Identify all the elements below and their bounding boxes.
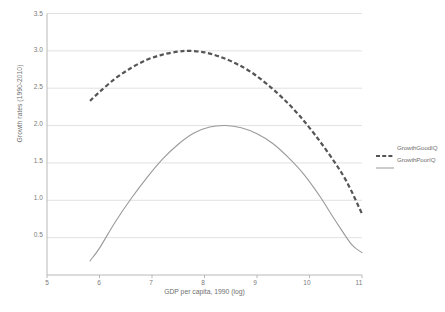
y-axis-title: Growth rates (1990-2010) bbox=[16, 39, 23, 169]
legend-item-growthpooriq[interactable]: GrowthPoorIQ bbox=[376, 154, 445, 165]
series-line-growthgoodiq bbox=[90, 51, 362, 214]
legend-swatch-dashed bbox=[376, 145, 394, 151]
series-line-growthpooriq bbox=[90, 126, 362, 261]
legend-label-growthgoodiq: GrowthGoodIQ bbox=[397, 144, 437, 151]
x-tick-label-2: 7 bbox=[141, 279, 161, 286]
legend-item-growthgoodiq[interactable]: GrowthGoodIQ bbox=[376, 142, 445, 153]
y-tick-label-1: 3.0 bbox=[21, 46, 43, 53]
y-tick-label-3: 2.0 bbox=[21, 120, 43, 127]
x-tick-label-0: 5 bbox=[37, 279, 57, 286]
y-tick-label-6: 0.5 bbox=[21, 231, 43, 238]
y-tick-label-2: 2.5 bbox=[21, 83, 43, 90]
y-tick-label-5: 1.0 bbox=[21, 194, 43, 201]
gridlines-group bbox=[47, 14, 362, 238]
x-tick-label-4: 9 bbox=[245, 279, 265, 286]
x-tick-label-3: 8 bbox=[193, 279, 213, 286]
x-tick-label-1: 6 bbox=[89, 279, 109, 286]
legend-label-growthpooriq: GrowthPoorIQ bbox=[397, 156, 435, 163]
x-tick-label-6: 11 bbox=[349, 279, 369, 286]
legend-swatch-solid bbox=[376, 157, 394, 163]
x-axis-title: GDP per capita, 1990 (log) bbox=[47, 288, 362, 295]
y-tick-label-4: 1.5 bbox=[21, 157, 43, 164]
x-tick-label-5: 10 bbox=[297, 279, 317, 286]
y-tick-label-0: 3.5 bbox=[21, 10, 43, 17]
chart-container: 3.5 3.0 2.5 2.0 1.5 1.0 0.5 5 6 7 8 9 10… bbox=[0, 0, 445, 312]
chart-legend: GrowthGoodIQ GrowthPoorIQ bbox=[376, 142, 445, 166]
series-group bbox=[90, 51, 362, 261]
